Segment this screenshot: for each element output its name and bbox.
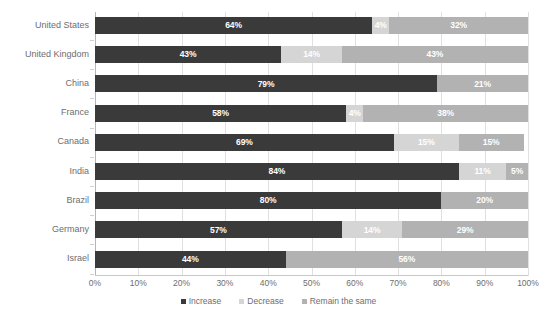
y-axis-label-india: India xyxy=(1,167,89,176)
legend-swatch-icon xyxy=(239,299,244,304)
bar-segment[interactable]: 29% xyxy=(402,221,528,238)
bar-track: 57%14%29% xyxy=(95,221,528,238)
bar-row: 43%14%43% xyxy=(95,46,528,63)
bar-segment[interactable]: 79% xyxy=(95,75,437,92)
x-axis-tick-label-60: 60% xyxy=(346,279,363,288)
y-axis-label-canada: Canada xyxy=(1,137,89,146)
bar-track: 80%20% xyxy=(95,192,528,209)
legend-item-decrease[interactable]: Decrease xyxy=(239,297,283,306)
legend-item-remain-the-same[interactable]: Remain the same xyxy=(302,297,377,306)
bar-segment[interactable]: 4% xyxy=(346,105,363,122)
bar-track: 44%56% xyxy=(95,251,528,268)
bar-segment-label: 79% xyxy=(258,80,275,89)
bar-segment-label: 11% xyxy=(474,167,490,176)
bar-segment-label: 44% xyxy=(182,255,199,264)
legend-label: Remain the same xyxy=(310,297,377,306)
chart-legend: IncreaseDecreaseRemain the same xyxy=(0,297,557,306)
bar-segment-label: 4% xyxy=(375,21,387,30)
y-axis-tick xyxy=(90,244,94,245)
x-axis-tick-label-80: 80% xyxy=(433,279,450,288)
plot-area: 64%4%32%43%14%43%79%21%58%4%38%69%15%15%… xyxy=(95,12,528,276)
bar-segment[interactable]: 58% xyxy=(95,105,346,122)
bar-segment[interactable]: 32% xyxy=(389,17,528,34)
bar-segment[interactable]: 80% xyxy=(95,192,441,209)
x-axis-tick-label-10: 10% xyxy=(130,279,147,288)
bar-segment-label: 14% xyxy=(303,50,320,59)
bar-row: 84%11%5% xyxy=(95,163,528,180)
bar-track: 79%21% xyxy=(95,75,528,92)
y-axis-label-china: China xyxy=(1,79,89,88)
bar-segment-label: 4% xyxy=(349,109,361,118)
gridline-100 xyxy=(528,12,529,276)
bar-segment-label: 21% xyxy=(474,80,491,89)
bar-row: 69%15%15% xyxy=(95,134,528,151)
bar-segment[interactable]: 14% xyxy=(281,46,342,63)
bar-segment[interactable]: 57% xyxy=(95,221,342,238)
bar-segment[interactable]: 11% xyxy=(459,163,507,180)
bar-track: 84%11%5% xyxy=(95,163,528,180)
y-axis-label-brazil: Brazil xyxy=(1,196,89,205)
bar-segment-label: 57% xyxy=(210,226,227,235)
bar-track: 69%15%15% xyxy=(95,134,528,151)
bar-segment[interactable]: 84% xyxy=(95,163,459,180)
legend-swatch-icon xyxy=(302,299,307,304)
bar-row: 58%4%38% xyxy=(95,105,528,122)
bar-segment-label: 56% xyxy=(398,255,415,264)
bar-segment[interactable]: 15% xyxy=(459,134,524,151)
bar-segment-label: 15% xyxy=(418,138,435,147)
x-axis-tick-label-30: 30% xyxy=(216,279,233,288)
x-axis-tick-labels: 0%10%20%30%40%50%60%70%80%90%100% xyxy=(95,279,528,293)
bar-segment[interactable]: 4% xyxy=(372,17,389,34)
bar-segment-label: 64% xyxy=(225,21,242,30)
bar-segment[interactable]: 43% xyxy=(95,46,281,63)
bar-track: 43%14%43% xyxy=(95,46,528,63)
bar-segment[interactable]: 64% xyxy=(95,17,372,34)
bar-segment[interactable]: 14% xyxy=(342,221,403,238)
bar-row: 44%56% xyxy=(95,251,528,268)
y-axis-tick xyxy=(90,157,94,158)
bar-track: 58%4%38% xyxy=(95,105,528,122)
y-axis-label-united-kingdom: United Kingdom xyxy=(1,50,89,59)
y-axis-tick xyxy=(90,215,94,216)
y-axis-tick xyxy=(90,69,94,70)
bar-segment[interactable]: 43% xyxy=(342,46,528,63)
y-axis-label-israel: Israel xyxy=(1,254,89,263)
bar-segment-label: 5% xyxy=(511,167,523,176)
legend-item-increase[interactable]: Increase xyxy=(181,297,222,306)
bar-segment[interactable]: 15% xyxy=(394,134,459,151)
bar-segment-label: 69% xyxy=(236,138,253,147)
x-axis-tick-label-70: 70% xyxy=(390,279,407,288)
bar-segment-label: 38% xyxy=(437,109,454,118)
x-axis-tick-label-40: 40% xyxy=(260,279,277,288)
x-axis-tick-label-100: 100% xyxy=(517,279,539,288)
y-axis-tick xyxy=(90,128,94,129)
bar-segment[interactable]: 38% xyxy=(363,105,528,122)
bar-segment[interactable]: 5% xyxy=(506,163,528,180)
bar-segment-label: 14% xyxy=(364,226,381,235)
bar-segment[interactable]: 21% xyxy=(437,75,528,92)
legend-label: Increase xyxy=(189,297,222,306)
bar-track: 64%4%32% xyxy=(95,17,528,34)
x-axis-tick-label-90: 90% xyxy=(476,279,493,288)
y-axis-tick xyxy=(90,274,94,275)
y-axis-label-france: France xyxy=(1,108,89,117)
bar-segment-label: 29% xyxy=(457,226,474,235)
stacked-bar-chart: United StatesUnited KingdomChinaFranceCa… xyxy=(0,0,557,322)
x-axis-tick-label-0: 0% xyxy=(89,279,101,288)
bar-segment[interactable]: 44% xyxy=(95,251,286,268)
bar-segment-label: 20% xyxy=(476,196,493,205)
bar-row: 64%4%32% xyxy=(95,17,528,34)
bar-segment-label: 43% xyxy=(180,50,197,59)
bar-row: 80%20% xyxy=(95,192,528,209)
y-axis-tick xyxy=(90,40,94,41)
y-axis-tick xyxy=(90,186,94,187)
bar-segment[interactable]: 20% xyxy=(441,192,528,209)
legend-swatch-icon xyxy=(181,299,186,304)
bar-segment-label: 58% xyxy=(212,109,229,118)
bar-segment[interactable]: 69% xyxy=(95,134,394,151)
bar-segment[interactable]: 56% xyxy=(286,251,528,268)
legend-label: Decrease xyxy=(247,297,283,306)
bar-segment-label: 32% xyxy=(450,21,467,30)
bar-segment-label: 84% xyxy=(269,167,286,176)
bar-row: 79%21% xyxy=(95,75,528,92)
